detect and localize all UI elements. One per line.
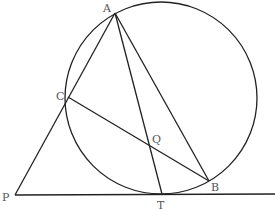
geometry-diagram: A C P T B Q	[0, 0, 275, 211]
label-a: A	[102, 2, 112, 15]
segment-ab	[115, 13, 209, 181]
tangent-line-pt	[15, 194, 275, 195]
segment-pa	[15, 13, 115, 195]
segment-at	[115, 13, 162, 194]
label-q: Q	[152, 133, 161, 146]
segment-cb	[68, 97, 209, 181]
circle	[65, 2, 257, 194]
label-t: T	[157, 199, 165, 211]
label-p: P	[2, 191, 10, 204]
label-c: C	[56, 90, 64, 103]
label-b: B	[211, 181, 219, 194]
